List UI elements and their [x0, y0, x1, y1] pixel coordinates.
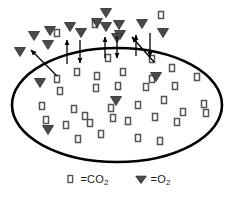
co2-square	[72, 106, 77, 113]
co2-square	[83, 113, 88, 120]
co2-square	[144, 84, 149, 91]
legend: =CO2 =O2	[0, 173, 235, 185]
o2-triangle	[101, 9, 112, 18]
co2-square	[204, 110, 209, 117]
o2-triangle	[137, 20, 148, 29]
o2-triangle	[76, 29, 87, 38]
co2-square	[136, 135, 141, 142]
o2-triangle	[15, 48, 26, 57]
legend-entry-o2: =O2	[135, 173, 171, 185]
co2-square	[136, 102, 141, 109]
o2-triangle	[65, 23, 76, 32]
legend-subscript-o2: 2	[166, 178, 171, 187]
o2-triangle	[158, 29, 169, 38]
down-triangle-icon	[135, 173, 147, 185]
co2-square	[181, 109, 186, 116]
co2-square	[153, 114, 158, 121]
legend-entry-co2: =CO2	[64, 173, 108, 185]
o2-triangle	[29, 32, 40, 41]
co2-square	[99, 131, 104, 138]
co2-square	[162, 97, 167, 104]
diagram-canvas	[0, 0, 235, 200]
legend-subscript-co2: 2	[104, 178, 109, 187]
legend-text-co2: CO	[87, 173, 104, 185]
co2-square	[109, 105, 114, 112]
o2-triangle	[43, 41, 54, 50]
square-icon	[64, 173, 76, 185]
gas-exchange-diagram: =CO2 =O2	[0, 0, 235, 200]
co2-square	[55, 76, 60, 83]
co2-square	[64, 122, 69, 129]
co2-square	[202, 101, 207, 108]
co2-square	[76, 136, 81, 143]
co2-square	[173, 83, 178, 90]
co2-square	[40, 103, 45, 110]
co2-square	[126, 118, 131, 125]
co2-square	[95, 73, 100, 80]
co2-square	[116, 83, 121, 90]
o2-triangle	[114, 21, 125, 30]
co2-square	[94, 85, 99, 92]
co2-square	[111, 115, 116, 122]
co2-square	[55, 30, 60, 37]
co2-square	[170, 65, 175, 72]
o2-triangle	[101, 23, 112, 32]
co2-square	[88, 120, 93, 127]
co2-square	[159, 12, 164, 19]
co2-square	[195, 74, 200, 81]
legend-equals-co2: =	[80, 173, 87, 185]
legend-text-o2: O	[157, 173, 166, 185]
legend-label-co2: =CO2	[80, 173, 108, 185]
co2-square	[75, 69, 80, 76]
co2-square	[44, 117, 49, 124]
legend-label-o2: =O2	[151, 173, 171, 185]
co2-square	[158, 138, 163, 145]
co2-square	[175, 119, 180, 126]
co2-square	[106, 55, 111, 62]
co2-square	[58, 88, 63, 95]
co2-square	[121, 69, 126, 76]
